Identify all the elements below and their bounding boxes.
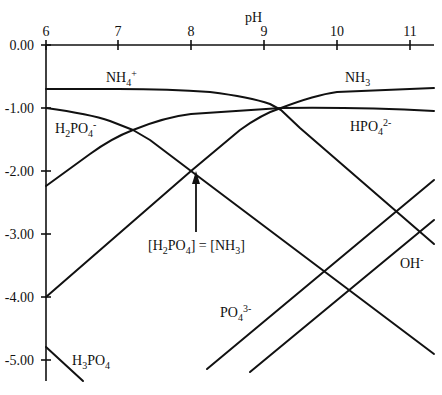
x-tick-label: 6: [43, 24, 50, 39]
label-oh: OH-: [400, 254, 424, 271]
y-tick-label: 0.00: [10, 38, 35, 53]
label-hpo4: HPO42-: [350, 117, 391, 137]
series-nh4-line: [46, 89, 434, 244]
annotation-label: [H2PO4] = [NH3]: [148, 238, 245, 256]
y-tick-label: -4.00: [5, 290, 34, 305]
y-tick-label: -1.00: [5, 101, 34, 116]
series-oh-line: [250, 220, 434, 372]
y-tick-labels: 0.00 -1.00 -2.00 -3.00 -4.00 -5.00: [5, 38, 34, 368]
label-nh4: NH4+: [106, 68, 137, 88]
label-h3po4: H3PO4: [72, 353, 110, 371]
x-tick-label: 7: [115, 24, 122, 39]
x-tick-label: 10: [330, 24, 344, 39]
y-tick-label: -2.00: [5, 164, 34, 179]
label-h2po4: H2PO4-: [55, 119, 96, 139]
series-labels: NH4+ NH3 H2PO4- HPO42- H3PO4 PO43- OH-: [55, 68, 424, 371]
label-nh3: NH3: [345, 70, 370, 88]
log-concentration-ph-chart: pH 6 7 8 9 10 11 0.00 -1.00 -2.00 -3.00 …: [0, 0, 442, 395]
x-tick-label: 8: [188, 24, 195, 39]
x-axis-title: pH: [245, 10, 262, 25]
x-tick-label: 11: [403, 24, 416, 39]
x-tick-labels: pH 6 7 8 9 10 11: [43, 10, 417, 39]
y-tick-label: -5.00: [5, 353, 34, 368]
y-tick-label: -3.00: [5, 227, 34, 242]
intersection-annotation: [H2PO4] = [NH3]: [148, 171, 245, 256]
x-tick-label: 9: [261, 24, 268, 39]
label-po4: PO43-: [220, 303, 251, 323]
